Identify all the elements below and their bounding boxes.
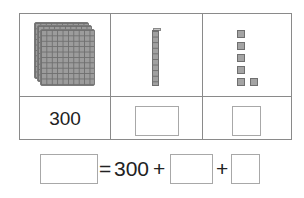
ones-addend-box[interactable] [231, 154, 260, 184]
ones-answer-box[interactable] [232, 106, 261, 136]
unit-cube-icon [237, 30, 245, 38]
hundred-flat-icon [40, 29, 95, 86]
plus-sign: + [153, 154, 165, 184]
equals-sign: = [99, 154, 111, 184]
ten-rod-icon [152, 30, 159, 86]
unit-cube-icon [237, 42, 245, 50]
tens-addend-box[interactable] [170, 154, 213, 184]
hundreds-value: 300 [20, 102, 110, 136]
first-addend: 300 [114, 154, 149, 184]
column-divider [202, 14, 203, 139]
total-answer-box[interactable] [40, 154, 98, 184]
tens-answer-box[interactable] [135, 106, 179, 136]
place-value-table: 300 [19, 13, 292, 140]
unit-cube-icon [237, 54, 245, 62]
unit-cube-icon [237, 66, 245, 74]
plus-sign: + [216, 154, 228, 184]
column-divider [110, 14, 111, 139]
unit-cube-icon [237, 78, 245, 86]
unit-cube-icon [250, 78, 258, 86]
row-divider [20, 96, 291, 97]
